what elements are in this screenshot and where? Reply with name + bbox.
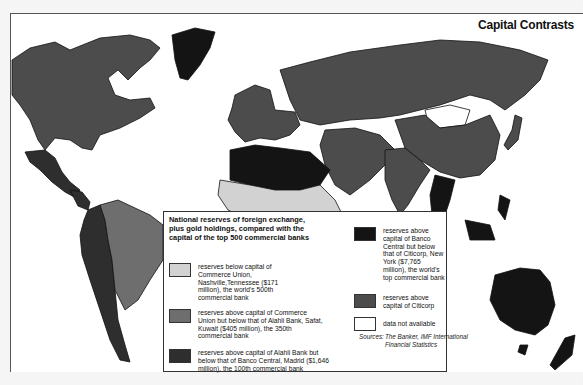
legend-swatch-na [354,317,376,331]
sources-text: The Banker, IMF International Financial … [385,333,475,349]
legend-label-tier3: reserves above capital of Alahli Bank bu… [198,349,333,372]
sources-label: Sources: [359,333,384,341]
region-tasmania [518,345,528,355]
region-canada-usa [12,35,160,150]
legend-label-tier4: reserves above capital of Banco Central … [383,227,445,282]
legend-label-na: data not available [383,320,445,328]
legend-item-tier5: reserves above capital of Citicorp [354,294,446,310]
legend-item-na: data not available [354,317,446,331]
map-title: Capital Contrasts [478,18,574,32]
region-australia [490,268,555,335]
region-ussr [280,40,548,125]
region-north-africa [230,145,330,190]
legend-swatch-tier1 [169,263,191,277]
region-new-zealand [550,335,575,370]
legend: National reserves of foreign exchange, p… [163,211,447,372]
legend-swatch-tier5 [354,294,376,308]
legend-item-tier4: reserves above capital of Banco Central … [354,227,446,282]
region-central-america [70,190,90,210]
legend-heading: National reserves of foreign exchange, p… [169,215,319,242]
legend-item-tier1: reserves below capital of Commerce Union… [169,263,334,302]
legend-label-tier2: reserves above capital of Commerce Union… [198,309,323,340]
region-japan [504,115,522,150]
legend-swatch-tier4 [354,227,376,241]
legend-item-tier2: reserves above capital of Commerce Union… [169,309,334,340]
legend-swatch-tier2 [169,309,191,323]
region-middle-east [320,128,395,195]
legend-label-tier5: reserves above capital of Citicorp [383,294,445,310]
legend-label-tier1: reserves below capital of Commerce Union… [198,263,293,302]
legend-item-tier3: reserves above capital of Alahli Bank bu… [169,349,349,372]
region-greenland [172,28,215,80]
legend-swatch-tier3 [169,349,191,363]
